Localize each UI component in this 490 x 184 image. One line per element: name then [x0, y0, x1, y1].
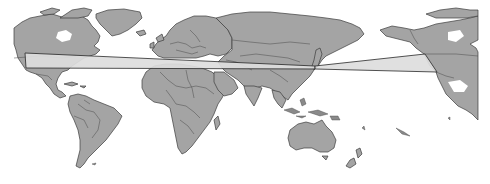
world-map: [0, 0, 490, 184]
